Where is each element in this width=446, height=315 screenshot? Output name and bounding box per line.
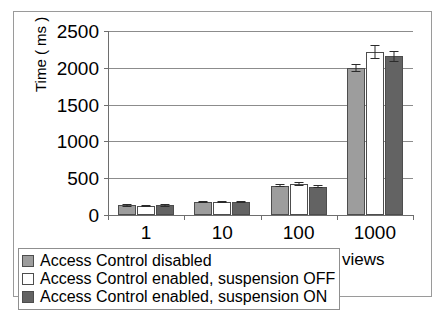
x-tick-label: 1 xyxy=(141,223,152,242)
y-tick-label: 2500 xyxy=(57,22,99,41)
x-tick-mark xyxy=(108,215,109,220)
x-tick-label: 1000 xyxy=(354,223,396,242)
y-axis-title-text: Time ( ms ) xyxy=(32,72,49,92)
x-tick-label: 100 xyxy=(283,223,315,242)
y-tick-label: 0 xyxy=(88,206,99,225)
error-bar xyxy=(298,182,299,186)
legend-swatch xyxy=(22,273,34,285)
x-tick-label: 10 xyxy=(212,223,233,242)
bar[interactable] xyxy=(194,202,212,215)
y-axis-title: Time ( ms ) xyxy=(32,52,49,72)
bar-group xyxy=(118,31,174,215)
error-bar xyxy=(374,45,375,60)
error-bar-cap xyxy=(389,61,398,62)
error-bar-cap xyxy=(370,45,379,46)
bar[interactable] xyxy=(232,202,250,215)
error-bar-cap xyxy=(313,185,322,186)
legend-item[interactable]: Access Control enabled, suspension ON xyxy=(22,288,335,306)
bar[interactable] xyxy=(137,206,155,215)
error-bar-cap xyxy=(351,64,360,65)
bar[interactable] xyxy=(366,52,384,215)
error-bar xyxy=(241,201,242,203)
y-axis-line xyxy=(108,31,109,215)
bar-group xyxy=(347,31,403,215)
legend-label: Access Control disabled xyxy=(40,253,212,269)
bar[interactable] xyxy=(118,205,136,215)
bar[interactable] xyxy=(156,205,174,215)
x-tick-mark xyxy=(337,215,338,220)
error-bar-cap xyxy=(161,206,170,207)
x-tick-mark xyxy=(413,215,414,220)
chart-legend: Access Control disabledAccess Control en… xyxy=(18,248,340,310)
legend-label: Access Control enabled, suspension ON xyxy=(40,289,327,305)
error-bar-cap xyxy=(389,51,398,52)
error-bar-cap xyxy=(199,202,208,203)
bar-group xyxy=(194,31,250,215)
error-bar xyxy=(203,201,204,203)
legend-item[interactable]: Access Control disabled xyxy=(22,252,335,270)
error-bar-cap xyxy=(123,206,132,207)
error-bar-cap xyxy=(370,58,379,59)
error-bar xyxy=(355,64,356,72)
bar[interactable] xyxy=(385,56,403,215)
error-bar xyxy=(279,184,280,187)
y-tick-mark xyxy=(104,68,109,69)
bar-group xyxy=(271,31,327,215)
error-bar-cap xyxy=(218,202,227,203)
legend-swatch xyxy=(22,291,34,303)
error-bar xyxy=(317,185,318,188)
legend-item[interactable]: Access Control enabled, suspension OFF xyxy=(22,270,335,288)
y-tick-mark xyxy=(104,31,109,32)
y-tick-label: 2000 xyxy=(57,58,99,77)
error-bar-cap xyxy=(237,202,246,203)
y-tick-mark xyxy=(104,178,109,179)
error-bar-cap xyxy=(313,187,322,188)
error-bar xyxy=(222,201,223,203)
bar[interactable] xyxy=(309,187,327,215)
error-bar xyxy=(146,205,147,207)
error-bar xyxy=(393,51,394,62)
bar[interactable] xyxy=(290,184,308,215)
chart-figure: Time ( ms ) 05001000150020002500 1101001… xyxy=(13,11,432,297)
x-tick-mark xyxy=(184,215,185,220)
error-bar-cap xyxy=(275,184,284,185)
error-bar-cap xyxy=(142,206,151,207)
x-tick-mark xyxy=(261,215,262,220)
y-tick-label: 500 xyxy=(67,169,99,188)
error-bar xyxy=(165,204,166,206)
error-bar-cap xyxy=(294,182,303,183)
error-bar xyxy=(127,204,128,206)
bar[interactable] xyxy=(271,186,289,215)
legend-label: Access Control enabled, suspension OFF xyxy=(40,271,335,287)
y-tick-label: 1000 xyxy=(57,132,99,151)
bar[interactable] xyxy=(347,68,365,215)
y-tick-label: 1500 xyxy=(57,95,99,114)
error-bar-cap xyxy=(294,185,303,186)
legend-swatch xyxy=(22,255,34,267)
y-tick-mark xyxy=(104,105,109,106)
y-tick-mark xyxy=(104,141,109,142)
bar[interactable] xyxy=(213,202,231,215)
plot-area: 05001000150020002500 1101001000 xyxy=(108,31,413,215)
error-bar-cap xyxy=(351,71,360,72)
error-bar-cap xyxy=(275,186,284,187)
